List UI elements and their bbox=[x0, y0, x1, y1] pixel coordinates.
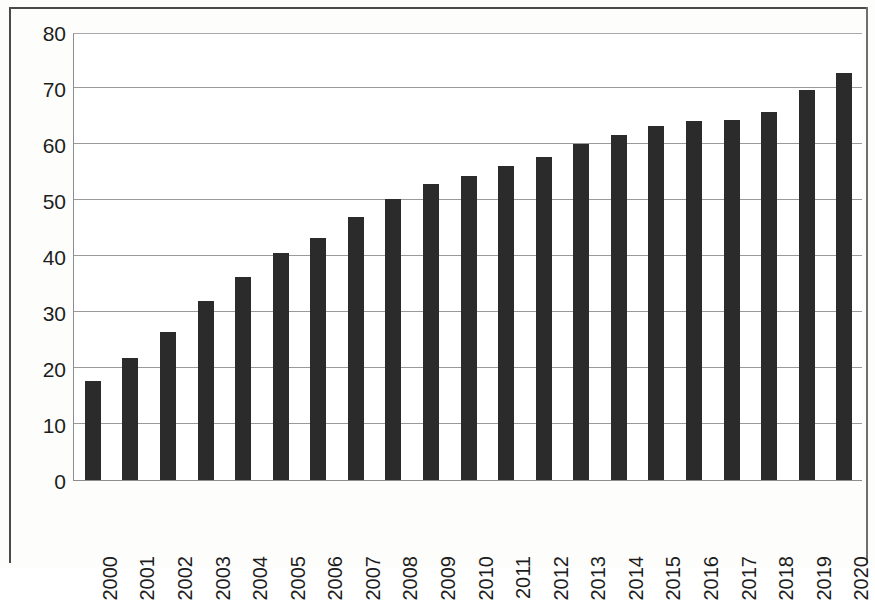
y-axis-tick-label: 70 bbox=[22, 79, 66, 100]
bar bbox=[348, 217, 364, 480]
bar bbox=[273, 253, 289, 480]
x-axis-tick-label: 2015 bbox=[663, 556, 683, 601]
x-axis-tick-label: 2002 bbox=[175, 556, 195, 601]
bars-group bbox=[74, 34, 862, 480]
bar bbox=[235, 277, 251, 480]
x-axis-tick-label: 2001 bbox=[137, 556, 157, 601]
bar bbox=[498, 166, 514, 480]
bar bbox=[799, 90, 815, 480]
y-axis-tick-label: 10 bbox=[22, 415, 66, 436]
x-axis-tick-label: 2018 bbox=[776, 556, 796, 601]
x-axis-tick-label: 2013 bbox=[588, 556, 608, 601]
bar bbox=[85, 381, 101, 480]
x-axis-tick-label: 2016 bbox=[701, 556, 721, 601]
y-axis-tick-label: 60 bbox=[22, 135, 66, 156]
y-axis-tick-label: 80 bbox=[22, 23, 66, 44]
bar bbox=[648, 126, 664, 480]
bar bbox=[461, 176, 477, 480]
x-axis-tick-label: 2006 bbox=[325, 556, 345, 601]
x-axis-tick-label: 2000 bbox=[100, 556, 120, 601]
bar bbox=[686, 121, 702, 480]
plot-area bbox=[73, 33, 862, 481]
x-axis-tick-label: 2005 bbox=[288, 556, 308, 601]
bar bbox=[836, 73, 852, 480]
y-axis-tick-label: 0 bbox=[22, 471, 66, 492]
bar bbox=[423, 184, 439, 480]
x-axis-tick-label: 2020 bbox=[851, 556, 871, 601]
bar bbox=[310, 238, 326, 480]
bar bbox=[573, 144, 589, 480]
x-axis-tick-label: 2009 bbox=[438, 556, 458, 601]
x-axis-tick-label: 2004 bbox=[250, 556, 270, 601]
bar bbox=[536, 157, 552, 480]
x-axis-tick-label: 2014 bbox=[626, 556, 646, 601]
x-axis-tick-label: 2007 bbox=[363, 556, 383, 601]
bar bbox=[724, 120, 740, 480]
x-axis-tick-label: 2017 bbox=[739, 556, 759, 601]
bar bbox=[761, 112, 777, 480]
y-axis-tick-label: 40 bbox=[22, 247, 66, 268]
x-axis-tick-label: 2008 bbox=[400, 556, 420, 601]
y-axis-tick-label: 30 bbox=[22, 303, 66, 324]
y-axis-tick-label: 50 bbox=[22, 191, 66, 212]
x-axis-tick-label: 2010 bbox=[476, 556, 496, 601]
x-axis-tick-label: 2012 bbox=[551, 556, 571, 601]
x-axis-tick-label: 2019 bbox=[814, 556, 834, 601]
bar bbox=[122, 358, 138, 480]
x-axis-tick-label: 2003 bbox=[213, 556, 233, 601]
bar bbox=[385, 199, 401, 480]
y-axis-tick-label: 20 bbox=[22, 359, 66, 380]
y-axis-tick-labels: 01020304050607080 bbox=[22, 20, 66, 510]
bar bbox=[198, 301, 214, 480]
bar bbox=[160, 332, 176, 480]
bar bbox=[611, 135, 627, 480]
x-axis-tick-label: 2011 bbox=[513, 556, 533, 599]
x-axis-tick-labels: 2000200120022003200420052006200720082009… bbox=[73, 484, 862, 568]
